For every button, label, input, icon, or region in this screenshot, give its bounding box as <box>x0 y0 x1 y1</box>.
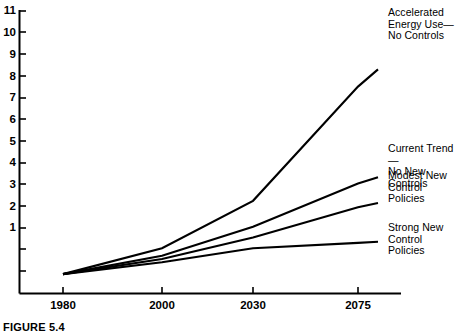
y-tick-label-1: 1 <box>0 222 16 234</box>
y-tick-label-5: 5 <box>0 136 16 148</box>
x-tick-label-2030: 2030 <box>230 300 276 312</box>
series-label-modest-new-control-policies: Modest New Control Policies <box>388 170 447 205</box>
y-tick-label-6: 6 <box>0 114 16 126</box>
series-line-2 <box>63 203 378 274</box>
x-tick-label-2075: 2075 <box>335 300 381 312</box>
y-tick-label-8: 8 <box>0 71 16 83</box>
y-tick-label-10: 10 <box>0 27 16 39</box>
y-tick-label-4: 4 <box>0 157 16 169</box>
x-tick-label-2000: 2000 <box>139 300 185 312</box>
series-label-strong-new-control-policies: Strong New Control Policies <box>388 222 443 257</box>
y-tick-label-11: 11 <box>0 5 16 17</box>
series-line-3 <box>63 242 378 274</box>
y-tick-label-2: 2 <box>0 201 16 213</box>
figure-caption: FIGURE 5.4 <box>3 322 65 331</box>
y-tick-label-7: 7 <box>0 92 16 104</box>
y-tick-label-9: 9 <box>0 49 16 61</box>
figure-container: 11 10 9 8 7 6 5 4 3 2 1 1980 2000 2030 2… <box>0 0 462 331</box>
series-line-1 <box>63 177 378 274</box>
series-layer <box>63 69 378 274</box>
y-tick-label-3: 3 <box>0 179 16 191</box>
x-tick-label-1980: 1980 <box>40 300 86 312</box>
series-label-accelerated-energy-use: Accelerated Energy Use— No Controls <box>388 7 454 42</box>
